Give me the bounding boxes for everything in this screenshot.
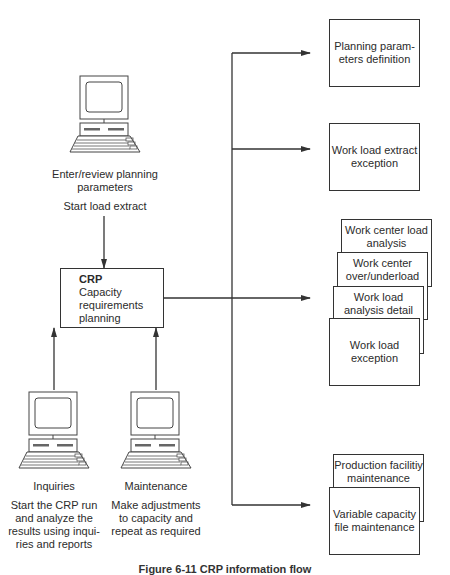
output-work-load-exception: Work load exception: [329, 318, 420, 386]
description-line: to capacity and: [106, 512, 206, 525]
start-load-extract-label: Start load extract: [40, 200, 170, 213]
box-line: Work load: [344, 291, 413, 304]
computer-terminal-icon: [17, 390, 92, 472]
crp-line: Capacity: [79, 286, 163, 299]
box-line: Work center: [346, 257, 419, 270]
box-line: exception: [350, 352, 399, 365]
box-line: Work load extract: [332, 144, 417, 157]
figure-caption: Figure 6-11 CRP information flow: [0, 563, 450, 575]
box-line: Variable capacity: [333, 508, 416, 521]
description-line: Make adjustments: [106, 499, 206, 512]
box-line: maintenance: [334, 472, 423, 485]
description-line: ries and reports: [4, 538, 104, 551]
output-planning-parameters-definition: Planning param- eters definition: [329, 19, 420, 87]
box-line: analysis: [345, 237, 428, 250]
maintenance-label: Maintenance: [106, 480, 206, 493]
box-line: Work center load: [345, 224, 428, 237]
box-line: over/underload: [346, 270, 419, 283]
label-line: parameters: [40, 181, 170, 194]
box-line: Production facilitiy: [334, 459, 423, 472]
output-work-load-extract-exception: Work load extract exception: [329, 123, 420, 191]
inquiries-label: Inquiries: [4, 480, 104, 493]
crp-title: CRP: [79, 273, 163, 286]
box-line: Work load: [350, 339, 399, 352]
maintenance-description: Make adjustments to capacity and repeat …: [106, 499, 206, 538]
maintenance-terminal: [119, 390, 194, 472]
box-line: eters definition: [334, 53, 415, 66]
box-line: exception: [332, 157, 417, 170]
label-line: Enter/review planning: [40, 168, 170, 181]
inquiries-terminal: [17, 390, 92, 472]
crp-line: planning: [79, 312, 163, 325]
computer-terminal-icon: [68, 74, 143, 156]
box-line: analysis detail: [344, 304, 413, 317]
description-line: repeat as required: [106, 525, 206, 538]
top-terminal-label: Enter/review planning parameters: [40, 168, 170, 194]
top-terminal: [68, 74, 143, 156]
crp-line: requirements: [79, 299, 163, 312]
box-line: Planning param-: [334, 40, 415, 53]
description-line: results using inqui-: [4, 525, 104, 538]
description-line: Start the CRP run: [4, 499, 104, 512]
box-line: file maintenance: [333, 521, 416, 534]
description-line: and analyze the: [4, 512, 104, 525]
computer-terminal-icon: [119, 390, 194, 472]
output-variable-capacity-file-maintenance: Variable capacity file maintenance: [329, 487, 420, 555]
inquiries-description: Start the CRP run and analyze the result…: [4, 499, 104, 551]
crp-process-box: CRP Capacity requirements planning: [60, 268, 164, 328]
